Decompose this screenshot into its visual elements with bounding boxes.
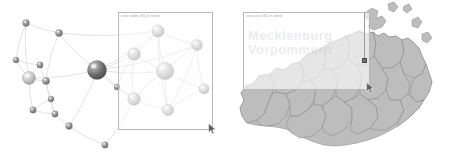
network-node-highlight <box>115 85 117 86</box>
map-selection-caption: sono area (65) in select <box>246 14 283 18</box>
map-island <box>422 32 432 43</box>
network-node[interactable] <box>48 96 54 102</box>
network-edge <box>69 126 105 145</box>
network-node[interactable] <box>30 107 36 113</box>
map-island <box>412 17 422 28</box>
network-edge <box>46 33 59 81</box>
network-node[interactable] <box>52 111 58 117</box>
map-island <box>388 2 398 12</box>
map-island <box>403 4 412 13</box>
graph-selection-box[interactable]: sono nodes (65) in select <box>118 12 213 130</box>
network-node-highlight <box>31 108 33 109</box>
map-location-marker[interactable] <box>362 58 367 63</box>
network-node[interactable] <box>13 57 19 63</box>
network-edge <box>16 23 26 60</box>
network-node[interactable] <box>55 29 62 36</box>
network-edge <box>29 70 97 78</box>
network-node-highlight <box>91 64 97 68</box>
map-selection-box[interactable]: sono area (65) in select Mecklenburg Vor… <box>243 12 370 90</box>
map-region-watermark: Mecklenburg Vorpommern <box>248 29 352 57</box>
network-edge <box>25 23 29 78</box>
network-edge <box>16 60 40 65</box>
map-marker-leader-line <box>364 12 365 59</box>
region-map-panel[interactable]: sono area (65) in select Mecklenburg Vor… <box>226 0 452 165</box>
network-node-highlight <box>57 31 59 33</box>
network-node-highlight <box>103 143 105 144</box>
network-node-highlight <box>14 58 16 59</box>
network-node-highlight <box>44 79 46 81</box>
network-edge <box>26 23 59 33</box>
network-node-highlight <box>25 74 29 77</box>
screenshot-root: sono nodes (65) in select <box>0 0 452 165</box>
map-district <box>400 38 426 78</box>
network-node[interactable] <box>23 20 30 27</box>
network-node[interactable] <box>102 142 108 148</box>
network-node[interactable] <box>87 60 106 79</box>
network-node-highlight <box>53 112 55 113</box>
network-node[interactable] <box>66 123 73 130</box>
network-node[interactable] <box>23 72 36 85</box>
network-node-highlight <box>38 63 40 64</box>
graph-selection-caption: sono nodes (65) in select <box>121 14 160 18</box>
network-node[interactable] <box>42 77 49 84</box>
network-node-highlight <box>24 21 26 23</box>
network-node-highlight <box>67 124 69 126</box>
network-node[interactable] <box>37 62 43 68</box>
network-graph-panel[interactable]: sono nodes (65) in select <box>0 0 226 165</box>
network-node-highlight <box>49 97 51 98</box>
